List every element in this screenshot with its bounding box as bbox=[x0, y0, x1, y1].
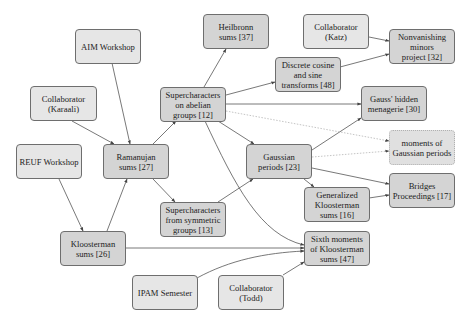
edge-dct-nonvanishing bbox=[340, 54, 389, 67]
edge-karaali-ramanujan bbox=[72, 121, 114, 144]
node-kloosterman-sums: Kloosterman sums [26] bbox=[60, 231, 126, 266]
edge-gaussian-moments bbox=[312, 151, 389, 157]
node-ramanujan-sums: Ramanujan sums [27] bbox=[103, 144, 169, 179]
node-collaborator-katz: Collaborator (Katz) bbox=[303, 14, 369, 49]
edge-aim-ramanujan bbox=[112, 63, 130, 144]
node-gauss-hidden-menagerie: Gauss' hidden menagerie [30] bbox=[361, 86, 427, 121]
node-collaborator-todd: Collaborator (Todd) bbox=[218, 275, 284, 310]
node-moments-gaussian-periods: moments of Gaussian periods bbox=[389, 130, 455, 165]
edge-ramanujan-superab bbox=[153, 121, 176, 144]
edge-genkloost-bridges bbox=[369, 195, 389, 198]
edge-gaussian-bridges bbox=[312, 168, 389, 184]
node-discrete-cosine-transforms: Discrete cosine and sine transforms [48] bbox=[275, 57, 341, 92]
edge-kloost-ramanujan bbox=[107, 179, 127, 231]
node-bridges-proceedings: Bridges Proceedings [17] bbox=[389, 173, 455, 208]
node-nonvanishing-minors: Nonvanishing minors project [32] bbox=[389, 29, 455, 64]
diagram-canvas: AIM Workshop Heilbronn sums [37] Collabo… bbox=[0, 0, 468, 324]
node-supercharacters-abelian: Supercharacters on abelian groups [12] bbox=[160, 87, 226, 122]
edge-superab-dct bbox=[226, 82, 275, 95]
node-reuf-workshop: REUF Workshop bbox=[16, 144, 82, 179]
node-aim-workshop: AIM Workshop bbox=[75, 29, 141, 64]
node-generalized-kloosterman: Generalized Kloosterman sums [16] bbox=[304, 187, 370, 222]
edge-ipam-sixth bbox=[197, 251, 304, 278]
node-ipam-semester: IPAM Semester bbox=[132, 275, 198, 310]
node-collaborator-karaali: Collaborator (Karaali) bbox=[30, 86, 97, 121]
node-sixth-moments-kloosterman: Sixth moments of Kloosterman sums [47] bbox=[304, 231, 370, 266]
edge-ramanujan-supersym bbox=[153, 179, 175, 202]
node-heilbronn-sums: Heilbronn sums [37] bbox=[203, 14, 269, 49]
edge-reuf-kloost bbox=[59, 179, 83, 231]
edge-gaussian-genkloost bbox=[304, 179, 314, 187]
node-supercharacters-symmetric: Supercharacters from symmetric groups [1… bbox=[160, 202, 226, 237]
node-gaussian-periods: Gaussian periods [23] bbox=[246, 144, 312, 179]
edge-superab-gaussian bbox=[218, 121, 254, 144]
edge-gaussian-menagerie bbox=[312, 118, 361, 150]
edge-superab-heilbronn bbox=[204, 49, 226, 87]
edge-todd-sixth bbox=[283, 262, 304, 275]
edge-katz-nonvanishing bbox=[369, 37, 389, 41]
edge-supersym-gaussian bbox=[218, 179, 253, 202]
